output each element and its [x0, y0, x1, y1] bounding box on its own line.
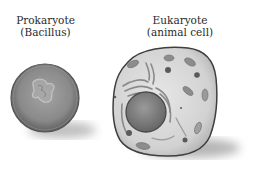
eukaryote-cell — [113, 47, 217, 156]
nucleus — [126, 92, 166, 132]
prokaryote-cell — [11, 64, 79, 132]
cell-illustration — [0, 0, 253, 171]
